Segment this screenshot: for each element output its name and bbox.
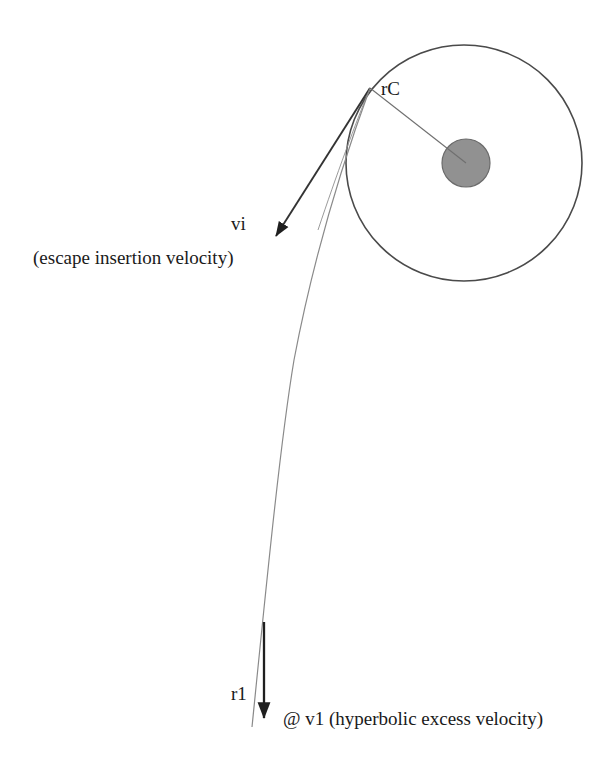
diagram-canvas (0, 0, 612, 771)
hyperbolic-excess-velocity-caption: @ v1 (hyperbolic excess velocity) (283, 709, 543, 728)
final-radius-label: r1 (231, 684, 247, 703)
escape-trajectory-diagram: rC vi (escape insertion velocity) r1 @ v… (0, 0, 612, 771)
orbit-radius-line (370, 88, 466, 163)
orbit-radius-label: rC (381, 79, 400, 98)
insertion-velocity-label: vi (231, 214, 246, 233)
escape-insertion-velocity-caption: (escape insertion velocity) (33, 248, 233, 267)
escape-trajectory-curve (252, 88, 370, 727)
